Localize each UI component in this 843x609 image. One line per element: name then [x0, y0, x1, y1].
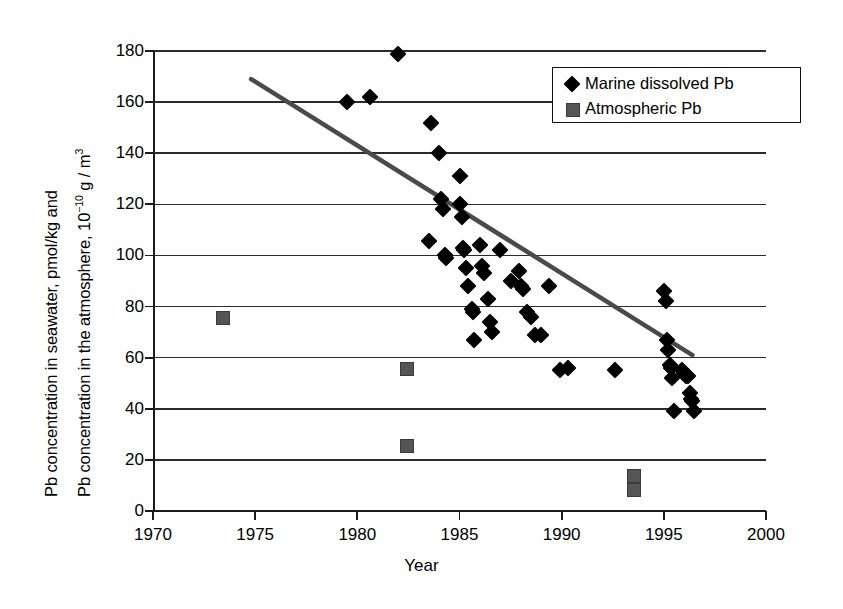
x-tick	[356, 511, 358, 520]
data-point-diamond	[541, 278, 558, 295]
y-tick-label: 140	[92, 144, 144, 161]
y-tick-label: 40	[92, 400, 144, 417]
y-tick-label: 0	[92, 502, 144, 519]
data-point-diamond	[422, 114, 439, 131]
data-point-square	[400, 362, 414, 376]
x-tick	[663, 511, 665, 520]
data-point-square	[216, 311, 230, 325]
data-point-diamond	[471, 237, 488, 254]
y-axis-title-line1: Pb concentration in seawater, pmol/kg an…	[42, 190, 61, 497]
gridline	[153, 306, 766, 308]
y-tick	[145, 50, 154, 52]
y-tick-label: 180	[92, 42, 144, 59]
data-point-diamond	[420, 233, 437, 250]
y-axis-title-unit-exponent: 3	[73, 149, 85, 155]
gridline	[153, 357, 766, 359]
y-tick-label: 120	[92, 195, 144, 212]
x-tick-label: 1985	[425, 525, 495, 545]
data-point-diamond	[431, 145, 448, 162]
data-point-diamond	[339, 94, 356, 111]
y-tick	[145, 101, 154, 103]
y-tick	[145, 459, 154, 461]
y-tick	[145, 255, 154, 257]
y-axis-title-line2-text: Pb concentration in the atmosphere, 10	[75, 213, 93, 497]
x-tick-label: 2000	[731, 525, 801, 545]
y-tick	[145, 357, 154, 359]
x-tick	[765, 511, 767, 520]
x-tick	[152, 511, 154, 520]
gridline	[153, 459, 766, 461]
y-tick	[145, 203, 154, 205]
x-axis-title: Year	[0, 556, 843, 576]
y-axis-line	[153, 51, 155, 511]
x-tick-label: 1975	[220, 525, 290, 545]
y-axis-title-line2: Pb concentration in the atmosphere, 10−1…	[73, 149, 94, 497]
chart-figure: Pb concentration in seawater, pmol/kg an…	[0, 0, 843, 609]
x-tick-label: 1980	[322, 525, 392, 545]
x-tick	[254, 511, 256, 520]
data-point-diamond	[465, 331, 482, 348]
legend-label-atmospheric: Atmospheric Pb	[585, 99, 701, 118]
y-tick	[145, 408, 154, 410]
chart-legend: Marine dissolved Pb Atmospheric Pb	[552, 67, 801, 123]
x-tick	[459, 511, 461, 520]
legend-label-marine: Marine dissolved Pb	[585, 74, 734, 93]
square-icon	[563, 99, 585, 119]
data-point-diamond	[453, 209, 470, 226]
data-point-diamond	[459, 278, 476, 295]
data-point-square	[627, 469, 641, 483]
x-tick-label: 1970	[118, 525, 188, 545]
data-point-diamond	[361, 89, 378, 106]
y-tick	[145, 306, 154, 308]
data-point-square	[627, 483, 641, 497]
data-point-square	[400, 439, 414, 453]
y-axis-title-exponent: −10	[73, 195, 85, 213]
y-tick-label: 60	[92, 349, 144, 366]
data-point-diamond	[451, 168, 468, 185]
x-tick-label: 1990	[527, 525, 597, 545]
diamond-icon	[563, 74, 585, 94]
data-point-diamond	[666, 403, 683, 420]
x-tick-label: 1995	[629, 525, 699, 545]
y-tick-label: 100	[92, 246, 144, 263]
data-point-diamond	[606, 362, 623, 379]
gridline	[153, 50, 766, 52]
y-tick-label: 20	[92, 451, 144, 468]
legend-item-atmospheric: Atmospheric Pb	[563, 96, 800, 121]
y-axis-title-units: g / m	[75, 155, 93, 196]
y-tick	[145, 152, 154, 154]
y-tick-label: 80	[92, 298, 144, 315]
gridline	[153, 152, 766, 154]
x-tick	[561, 511, 563, 520]
data-point-diamond	[390, 45, 407, 62]
y-tick-label: 160	[92, 93, 144, 110]
legend-item-marine: Marine dissolved Pb	[563, 71, 800, 96]
data-point-diamond	[457, 260, 474, 277]
data-point-diamond	[492, 242, 509, 259]
